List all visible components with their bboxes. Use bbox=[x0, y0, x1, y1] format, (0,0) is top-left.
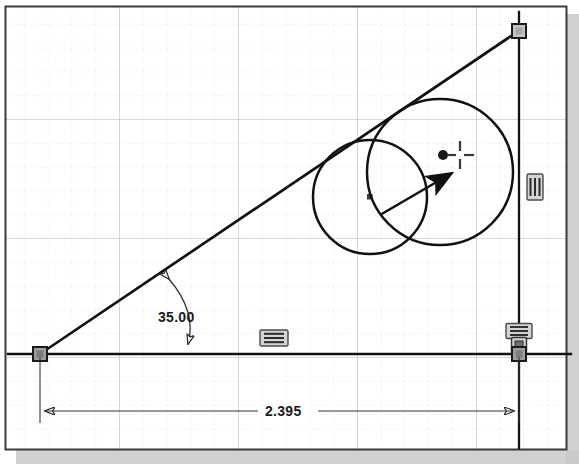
sheet-shadow bbox=[16, 450, 579, 464]
grid-layer bbox=[6, 7, 566, 449]
origin-point-inner bbox=[37, 351, 44, 358]
sheet-shadow-right bbox=[566, 14, 579, 464]
top-vertex-inner bbox=[516, 28, 523, 35]
horizontal-constraint-icon-right[interactable] bbox=[506, 324, 532, 339]
sketch-canvas-root[interactable]: 35.00 2.395 bbox=[0, 0, 579, 468]
circle-large-center-point[interactable] bbox=[438, 150, 448, 160]
angular-dimension-label[interactable]: 35.00 bbox=[158, 309, 195, 325]
bottom-right-vertex-inner bbox=[516, 351, 523, 358]
vertical-constraint-icon[interactable] bbox=[527, 174, 543, 200]
sketch-drawing-area[interactable]: 35.00 2.395 bbox=[0, 0, 579, 468]
linear-dimension-label[interactable]: 2.395 bbox=[265, 403, 302, 419]
horizontal-constraint-icon-mid[interactable] bbox=[260, 330, 288, 346]
